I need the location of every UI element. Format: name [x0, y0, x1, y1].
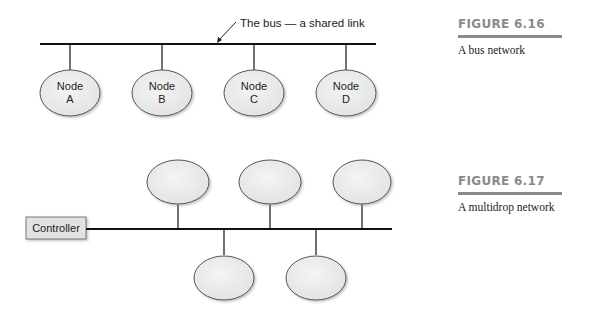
node-a-label-line1: Node [57, 80, 83, 92]
node-b-label-line1: Node [149, 80, 175, 92]
node-d-label-line1: Node [333, 80, 359, 92]
controller-label: Controller [32, 222, 80, 234]
figure-6-17-title: A multidrop network [458, 201, 562, 213]
figure-6-16-title: A bus network [458, 44, 562, 56]
bus-annotation-label: The bus — a shared link [240, 17, 365, 29]
figure-6-16-caption: FIGURE 6.16 A bus network [458, 17, 562, 56]
figure-6-17-rule [458, 192, 562, 195]
bus-annotation-arrow [219, 22, 236, 40]
upper-node-1 [147, 160, 209, 204]
lower-node-1 [194, 256, 254, 300]
node-d-label-line2: D [342, 93, 350, 105]
figure-6-16-number: FIGURE 6.16 [458, 17, 562, 31]
node-c: Node C [224, 70, 284, 116]
node-c-label-line1: Node [241, 80, 267, 92]
upper-node-3 [333, 160, 391, 204]
lower-node-2 [286, 256, 346, 300]
figure-6-17-number: FIGURE 6.17 [458, 174, 562, 188]
figure-6-17-caption: FIGURE 6.17 A multidrop network [458, 174, 562, 213]
upper-node-2 [239, 160, 301, 204]
figure-6-16-rule [458, 35, 562, 38]
controller-box: Controller [26, 217, 86, 239]
bus-network-figure: The bus — a shared link Node A Node B No… [40, 17, 376, 116]
node-d: Node D [316, 70, 376, 116]
node-b-label-line2: B [158, 93, 165, 105]
node-a: Node A [40, 70, 100, 116]
node-c-label-line2: C [250, 93, 258, 105]
multidrop-network-figure: Controller [26, 160, 392, 300]
node-b: Node B [132, 70, 192, 116]
node-a-label-line2: A [66, 93, 74, 105]
